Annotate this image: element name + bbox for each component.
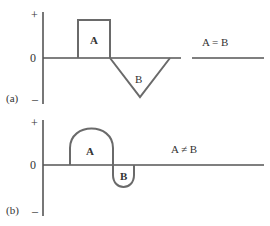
plus-sign-a: + bbox=[31, 8, 38, 22]
region-b-label: B bbox=[135, 73, 142, 85]
region-b-label-b: B bbox=[120, 170, 128, 182]
relation-label-a: A = B bbox=[202, 36, 228, 48]
minus-sign-a: – bbox=[31, 92, 39, 106]
zero-label-b: 0 bbox=[30, 158, 36, 172]
diagram-canvas: + 0 – (a) A B A = B + 0 – (b) A B A ≠ B bbox=[0, 0, 270, 226]
panel-label-a: (a) bbox=[6, 92, 19, 105]
plus-sign-b: + bbox=[31, 116, 38, 130]
panel-b: + 0 – (b) A B A ≠ B bbox=[6, 116, 264, 218]
relation-label-b: A ≠ B bbox=[171, 143, 197, 155]
zero-label-a: 0 bbox=[30, 51, 36, 65]
panel-label-b: (b) bbox=[6, 204, 19, 217]
region-a-label: A bbox=[90, 34, 98, 46]
panel-a: + 0 – (a) A B A = B bbox=[6, 8, 264, 106]
region-a-label-b: A bbox=[86, 145, 94, 157]
minus-sign-b: – bbox=[31, 204, 39, 218]
